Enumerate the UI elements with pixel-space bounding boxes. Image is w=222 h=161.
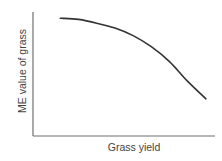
x-axis-label: Grass yield [108,141,161,153]
chart: Grass yield ME value of grass [0,0,222,161]
series-line [60,18,206,99]
y-axis-label: ME value of grass [16,29,28,113]
